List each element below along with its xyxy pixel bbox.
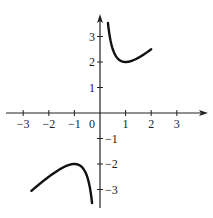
y-tick-label: −3 bbox=[105, 183, 118, 197]
y-tick-label: 1 bbox=[89, 81, 95, 95]
x-tick-label: −2 bbox=[42, 117, 55, 131]
left-branch-curve bbox=[31, 164, 92, 203]
x-tick-label: −1 bbox=[68, 117, 81, 131]
chart: −3−2−11230321−1−2−3 bbox=[0, 0, 213, 218]
origin-label: 0 bbox=[89, 117, 95, 131]
x-tick-label: 2 bbox=[148, 117, 154, 131]
y-tick-label: 2 bbox=[89, 55, 95, 69]
axes bbox=[6, 14, 208, 208]
x-tick-label: 1 bbox=[123, 117, 129, 131]
right-branch-curve bbox=[108, 23, 151, 62]
y-tick-label: −2 bbox=[105, 157, 118, 171]
y-tick-label: −1 bbox=[105, 132, 118, 146]
y-tick-label: 3 bbox=[89, 30, 95, 44]
x-tick-label: −3 bbox=[17, 117, 30, 131]
x-tick-label: 3 bbox=[174, 117, 180, 131]
